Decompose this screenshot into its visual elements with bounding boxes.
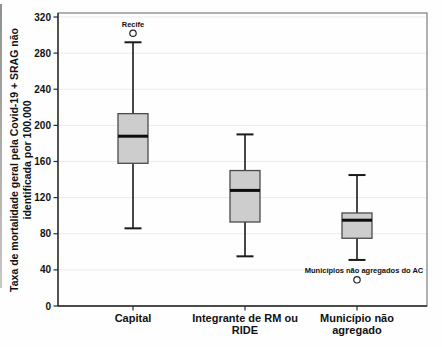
outlier-label: Municípios não agregados do AC [305, 266, 424, 275]
boxplot-figure: Taxa de mortalidade geral pela Covid-19 … [0, 0, 442, 347]
x-category-label: Capital [115, 312, 152, 324]
y-tick-label: 240 [34, 84, 51, 95]
box-iqr [118, 114, 148, 164]
box-iqr [230, 171, 260, 222]
outlier-point [130, 30, 136, 36]
y-tick-label: 280 [34, 48, 51, 59]
x-category-label: Município não [320, 312, 394, 324]
y-tick-label: 80 [40, 228, 52, 239]
x-category-label: RIDE [232, 324, 258, 336]
x-category-label: agregado [332, 324, 382, 336]
y-tick-label: 40 [40, 264, 52, 275]
y-tick-label: 320 [34, 12, 51, 23]
y-tick-label: 200 [34, 120, 51, 131]
plot-frame [58, 13, 427, 306]
y-tick-label: 0 [45, 301, 51, 312]
outlier-point [354, 277, 360, 283]
x-category-label: Integrante de RM ou [192, 312, 298, 324]
y-tick-label: 120 [34, 192, 51, 203]
box-iqr [342, 213, 372, 238]
outlier-label: Recife [122, 20, 145, 29]
boxplot-canvas: RecifeCapitalIntegrante de RM ouRIDEMuni… [0, 0, 442, 347]
y-tick-label: 160 [34, 156, 51, 167]
